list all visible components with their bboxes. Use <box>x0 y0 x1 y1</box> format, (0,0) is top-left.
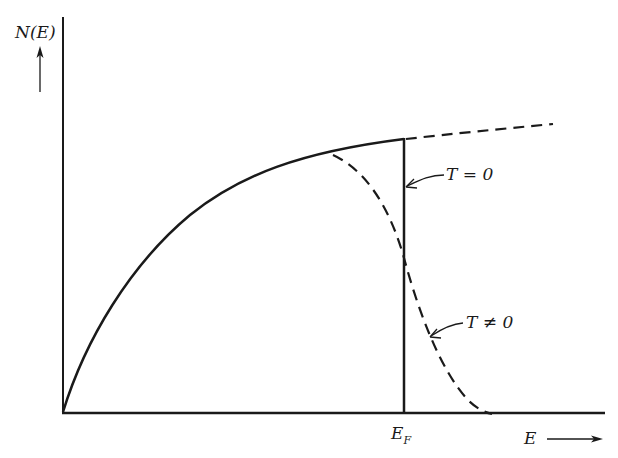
fermi-distribution-diagram <box>0 0 618 458</box>
x-axis-label: E <box>524 430 536 447</box>
fermi-energy-label: EF <box>391 425 411 442</box>
t-nonzero-label: T ≠ 0 <box>466 314 513 331</box>
y-axis-label: N(E) <box>15 24 56 41</box>
t-zero-label: T = 0 <box>446 166 493 183</box>
fermi-energy-symbol: E <box>391 423 403 443</box>
curve-dos-continuation <box>406 124 553 139</box>
fermi-energy-subscript: F <box>403 434 411 447</box>
curve-t-nonzero <box>333 155 492 414</box>
curve-t-zero <box>63 139 404 412</box>
